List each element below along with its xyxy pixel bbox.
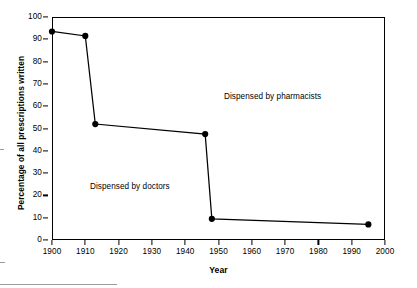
data-point	[365, 221, 371, 227]
y-tick-mark	[43, 128, 48, 129]
y-tick-label: 80	[33, 57, 42, 65]
x-tick-mark	[384, 240, 385, 245]
data-point	[202, 131, 208, 137]
x-tick-mark	[251, 240, 252, 245]
data-series-layer	[52, 17, 385, 240]
x-tick-mark	[118, 240, 119, 245]
y-tick-mark	[43, 217, 48, 218]
x-tick-label: 1900	[43, 248, 62, 256]
x-tick-label: 1970	[276, 248, 295, 256]
y-tick-mark	[43, 173, 48, 174]
y-tick-label: 50	[33, 124, 42, 132]
x-tick-mark	[218, 240, 219, 245]
x-tick-mark	[151, 240, 152, 245]
y-tick-mark	[43, 106, 48, 107]
x-tick-label: 1910	[76, 248, 95, 256]
y-tick-label: 70	[33, 80, 42, 88]
data-point	[209, 216, 215, 222]
x-tick-mark	[85, 240, 86, 245]
x-tick-label: 1930	[143, 248, 162, 256]
annotation-dispensed-by-doctors: Dispensed by doctors	[90, 183, 170, 191]
annotation-dispensed-by-pharmacists: Dispensed by pharmacists	[224, 93, 321, 101]
x-tick-label: 1950	[209, 248, 228, 256]
x-tick-mark	[285, 240, 286, 245]
series-line	[52, 31, 368, 224]
y-tick-label: 30	[33, 169, 42, 177]
x-tick-mark	[185, 240, 186, 245]
y-tick-mark	[43, 61, 48, 62]
y-tick-mark	[43, 16, 48, 17]
x-tick-label: 1940	[176, 248, 195, 256]
scan-artifact-mark	[0, 262, 5, 263]
x-tick-label: 2000	[376, 248, 395, 256]
x-tick-label: 1980	[309, 248, 328, 256]
x-tick-label: 1960	[242, 248, 261, 256]
x-tick-mark	[51, 240, 52, 245]
y-tick-mark	[43, 39, 48, 40]
y-tick-label: 20	[33, 191, 42, 199]
chart-figure: 100 90 80 70 60 50 40 30 20 10 0 Percent…	[0, 0, 417, 288]
y-tick-label: 10	[33, 214, 42, 222]
y-tick-mark	[43, 150, 48, 151]
x-axis-title: Year	[52, 265, 385, 275]
data-point	[82, 33, 88, 39]
x-tick-mark	[318, 240, 319, 245]
y-tick-mark	[43, 195, 48, 196]
y-tick-mark	[43, 83, 48, 84]
x-tick-mark	[351, 240, 352, 245]
x-tick-label: 1990	[342, 248, 361, 256]
data-point	[92, 121, 98, 127]
y-axis-title: Percentage of all prescriptions written	[16, 33, 26, 233]
y-tick-label: 40	[33, 147, 42, 155]
x-tick-label: 1920	[109, 248, 128, 256]
data-point	[49, 28, 55, 34]
scan-artifact-mark	[0, 149, 4, 150]
y-tick-label: 60	[33, 102, 42, 110]
y-tick-label: 90	[33, 35, 42, 43]
scan-artifact-line	[0, 284, 117, 285]
y-tick-label: 100	[28, 13, 42, 21]
